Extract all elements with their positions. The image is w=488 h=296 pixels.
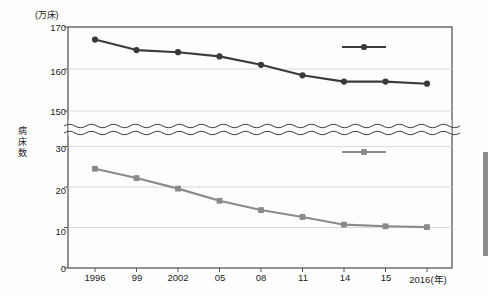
data-point <box>300 214 306 220</box>
data-point <box>258 207 264 213</box>
data-point <box>217 198 223 204</box>
data-point <box>258 62 264 68</box>
x-axis-tick-marks <box>95 268 427 272</box>
data-point <box>383 223 389 229</box>
axis-break-wave <box>64 120 460 136</box>
data-point <box>92 166 98 172</box>
data-point <box>424 224 430 230</box>
data-point <box>175 49 181 55</box>
chart-figure: (万床) 病 床 数 170 160 150 30 20 10 0 1996 9… <box>0 0 488 296</box>
data-point <box>92 37 98 43</box>
data-point <box>341 222 347 228</box>
chart-plot-svg <box>0 0 488 296</box>
data-point <box>216 53 222 59</box>
data-point <box>299 72 305 78</box>
data-point <box>382 79 388 85</box>
data-point <box>175 186 181 192</box>
page-edge-artifact <box>483 152 488 256</box>
data-point <box>134 175 140 181</box>
data-point <box>424 81 430 87</box>
data-point <box>133 47 139 53</box>
data-point <box>341 79 347 85</box>
